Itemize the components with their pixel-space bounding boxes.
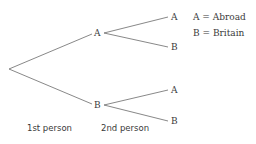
node-1st-A: A	[94, 28, 101, 38]
node-2nd-BA: A	[171, 85, 178, 95]
branch-B-to-A	[104, 90, 168, 105]
branch-root-to-A	[9, 34, 92, 69]
node-2nd-AA: A	[171, 12, 178, 22]
legend-abroad: A = Abroad	[193, 12, 246, 22]
node-1st-B: B	[94, 100, 101, 110]
branch-B-to-B	[104, 105, 168, 121]
branch-A-to-B	[104, 33, 168, 47]
legend-britain: B = Britain	[193, 28, 244, 38]
caption-1st-person: 1st person	[27, 123, 72, 133]
branch-A-to-A	[104, 17, 168, 33]
node-2nd-AB: B	[171, 42, 178, 52]
caption-2nd-person: 2nd person	[101, 123, 149, 133]
node-2nd-BB: B	[171, 116, 178, 126]
tree-diagram: A B A B A B A = Abroad B = Britain 1st p…	[0, 0, 256, 144]
branch-root-to-B	[9, 69, 92, 104]
